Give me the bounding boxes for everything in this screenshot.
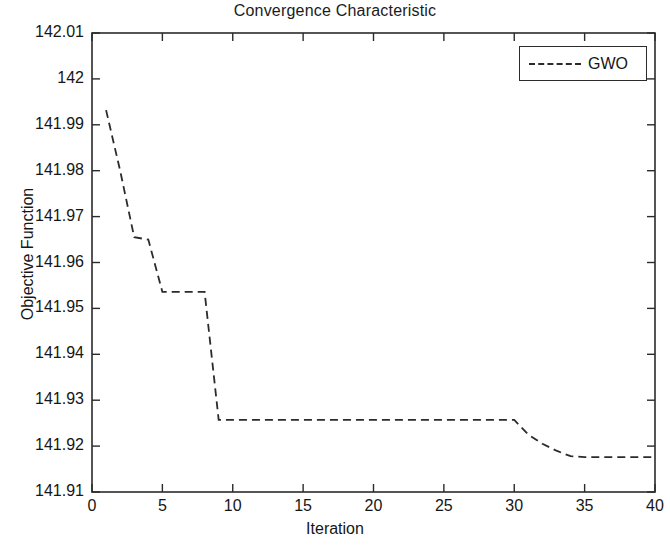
y-tick-label: 141.97 [35,207,84,225]
y-tick-label: 141.92 [35,436,84,454]
y-tick-label: 141.98 [35,161,84,179]
series-line-gwo [106,110,655,457]
y-tick-label: 141.93 [35,390,84,408]
x-tick-label: 30 [484,497,544,515]
y-tick-label: 141.94 [35,344,84,362]
x-tick-label: 20 [344,497,404,515]
y-tick-label: 141.95 [35,298,84,316]
series-layer [106,110,655,457]
y-tick-label: 141.96 [35,253,84,271]
x-tick-label: 5 [132,497,192,515]
axes-frame [92,33,655,492]
y-axis-label: Objective Function [19,134,37,374]
x-tick-label: 25 [414,497,474,515]
legend-label: GWO [588,56,628,72]
x-tick-label: 15 [273,497,333,515]
legend-entry-gwo: GWO [520,47,646,80]
plot-canvas [0,0,670,550]
x-tick-label: 10 [203,497,263,515]
legend: GWO [519,46,647,81]
y-tick-label: 142.01 [35,23,84,41]
y-tick-label: 141.99 [35,115,84,133]
convergence-chart-figure: Convergence Characteristic 141.91141.921… [0,0,670,550]
y-tick-label: 142 [57,69,84,87]
x-tick-label: 35 [555,497,615,515]
legend-line-sample-icon [529,63,581,65]
x-tick-label: 40 [625,497,670,515]
x-tick-label: 0 [62,497,122,515]
x-axis-label: Iteration [0,520,670,538]
tick-marks [92,33,655,492]
